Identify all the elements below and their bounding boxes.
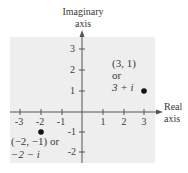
imaginary-axis-label: Imaginary	[62, 6, 103, 17]
x-tick-label: 2	[122, 116, 127, 127]
point-3-1	[141, 88, 147, 94]
y-tick-label: 2	[70, 64, 75, 75]
y-tick-label: 3	[70, 43, 75, 54]
imaginary-axis-arrow-icon	[80, 30, 85, 37]
real-axis-label: Real	[164, 101, 183, 112]
imaginary-axis-label: axis	[75, 18, 91, 29]
real-axis-arrow-icon	[156, 110, 163, 115]
y-tick-label: -2	[68, 146, 76, 157]
x-tick-label: -2	[36, 116, 44, 127]
y-tick-label: 1	[70, 85, 75, 96]
x-tick-label: -1	[57, 116, 65, 127]
point-label-complex: 3 + i	[111, 81, 133, 93]
point-label-or: or	[112, 69, 122, 81]
complex-plane-diagram: -3 -2 -1 1 2 3 3 2 1 -1 -2 Imaginary axi…	[0, 0, 188, 173]
real-axis-label: axis	[164, 113, 180, 124]
point-neg2-neg1	[38, 129, 44, 135]
x-tick-label: -3	[15, 116, 23, 127]
x-tick-label: 3	[142, 116, 147, 127]
point-label-coords: (−2, −1) or	[11, 135, 59, 148]
y-tick-label: -1	[68, 126, 76, 137]
x-tick-label: 1	[101, 116, 106, 127]
point-label-complex: −2 − i	[11, 148, 40, 160]
